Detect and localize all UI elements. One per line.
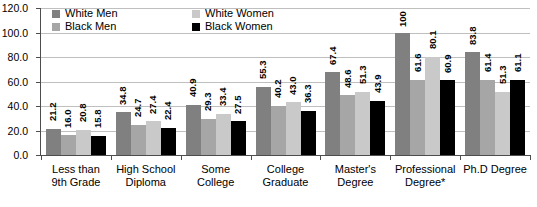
category-label: High SchoolDiploma — [111, 163, 181, 203]
category-label: CollegeGraduate — [251, 163, 321, 203]
bar-value-label: 27.5 — [233, 104, 243, 114]
bar-group: 10061.680.160.9 — [390, 8, 460, 155]
bar — [131, 125, 146, 155]
category-label: ProfessionalDegree* — [390, 163, 460, 203]
legend-label: White Women — [205, 8, 274, 19]
legend-swatch-icon — [52, 10, 60, 18]
bar — [395, 33, 410, 156]
bar — [301, 111, 316, 155]
legend-entry-white-women: White Women — [192, 8, 342, 19]
bar-slot: 51.3 — [355, 8, 370, 155]
bar — [495, 92, 510, 155]
bar — [216, 114, 231, 155]
y-axis-tick-label: 40.0 — [0, 101, 28, 111]
legend: White MenWhite WomenBlack MenBlack Women — [52, 7, 342, 33]
bar-slot: 60.9 — [440, 8, 455, 155]
category-label: Ph.D Degree — [460, 163, 530, 203]
y-axis-tick-label: 0.0 — [0, 150, 28, 160]
bar-slot: 61.1 — [510, 8, 525, 155]
bar — [325, 72, 340, 155]
category-label-line: Professional — [390, 163, 460, 176]
category-label: Master'sDegree — [320, 163, 390, 203]
legend-label: Black Men — [65, 21, 116, 32]
bar-value-label: 22.4 — [163, 110, 173, 120]
category-label-line: College — [181, 176, 251, 189]
bar — [146, 121, 161, 155]
bar — [201, 119, 216, 155]
bar-value-label: 40.2 — [273, 88, 283, 98]
bar-value-label: 20.8 — [78, 112, 88, 122]
bar — [465, 52, 480, 155]
bar-value-label: 24.7 — [133, 107, 143, 117]
bar-slot: 61.4 — [480, 8, 495, 155]
x-axis-tick-mark — [390, 155, 391, 160]
bar-value-label: 60.9 — [443, 63, 453, 73]
y-axis-tick-label: 80.0 — [0, 52, 28, 62]
bar-slot: 48.6 — [340, 8, 355, 155]
category-label-line: 9th Grade — [41, 176, 111, 189]
bar — [340, 95, 355, 155]
bar — [231, 121, 246, 155]
bar — [61, 135, 76, 155]
category-label: Less than9th Grade — [41, 163, 111, 203]
bar-value-label: 43.9 — [373, 83, 383, 93]
bar-value-label: 80.1 — [428, 39, 438, 49]
category-label-line: Some — [181, 163, 251, 176]
bar-value-label: 48.6 — [343, 78, 353, 88]
bar-group: 83.861.451.361.1 — [460, 8, 530, 155]
y-axis-tick-label: 20.0 — [0, 126, 28, 136]
bar-value-label: 15.8 — [93, 118, 103, 128]
bar — [271, 106, 286, 155]
bar-value-label: 21.2 — [48, 111, 58, 121]
bar — [425, 57, 440, 155]
bar-value-label: 61.1 — [513, 62, 523, 72]
legend-entry-black-men: Black Men — [52, 21, 192, 32]
x-axis-tick-mark — [181, 155, 182, 160]
category-label-line: High School — [111, 163, 181, 176]
bar-value-label: 16.0 — [63, 118, 73, 128]
legend-entry-white-men: White Men — [52, 8, 192, 19]
legend-swatch-icon — [192, 23, 200, 31]
bar-slot: 43.9 — [370, 8, 385, 155]
y-axis-tick-label: 120.0 — [0, 3, 28, 13]
bar — [116, 112, 131, 155]
category-label: SomeCollege — [181, 163, 251, 203]
legend-swatch-icon — [192, 10, 200, 18]
bar-value-label: 51.3 — [358, 74, 368, 84]
bar — [161, 128, 176, 155]
bar-value-label: 43.0 — [288, 85, 298, 95]
x-axis-line — [40, 155, 530, 156]
bar-value-label: 51.3 — [498, 74, 508, 84]
bar — [256, 87, 271, 155]
bar-slot: 61.6 — [410, 8, 425, 155]
bar-value-label: 55.3 — [258, 69, 268, 79]
category-label-line: Less than — [41, 163, 111, 176]
bar-chart: 120.0100.080.060.040.020.00.0 White MenW… — [0, 0, 537, 207]
bar — [91, 136, 106, 155]
y-axis-tick-label: 60.0 — [0, 77, 28, 87]
bar-slot: 80.1 — [425, 8, 440, 155]
bar — [355, 92, 370, 155]
bar-value-label: 27.4 — [148, 104, 158, 114]
bar — [46, 129, 61, 155]
bar-slot: 83.8 — [465, 8, 480, 155]
y-axis-tick-label: 100.0 — [0, 28, 28, 38]
bar — [480, 80, 495, 155]
bar-value-label: 83.8 — [468, 35, 478, 45]
bar-value-label: 40.9 — [188, 87, 198, 97]
bar-value-label: 34.8 — [118, 95, 128, 105]
category-label-line: Degree — [320, 176, 390, 189]
bar — [186, 105, 201, 155]
category-label-line: Master's — [320, 163, 390, 176]
x-axis-tick-mark — [41, 155, 42, 160]
category-label-line: Ph.D Degree — [460, 163, 530, 176]
x-axis-tick-mark — [251, 155, 252, 160]
bar-value-label: 29.3 — [203, 101, 213, 111]
bar — [410, 80, 425, 155]
bar — [510, 80, 525, 155]
category-label-line: Graduate — [251, 176, 321, 189]
legend-swatch-icon — [52, 23, 60, 31]
bar-value-label: 100 — [398, 17, 408, 27]
bar-value-label: 33.4 — [218, 96, 228, 106]
x-axis-tick-mark — [530, 155, 531, 160]
